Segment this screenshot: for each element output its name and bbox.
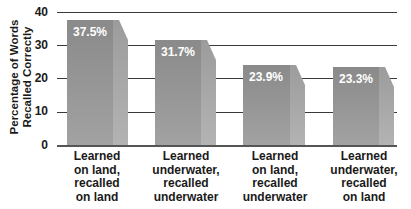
y-tick-30: 30: [28, 38, 48, 52]
bar-side: [201, 40, 216, 145]
x-category-1: Learned on land, recalled on land: [52, 150, 142, 204]
cat-line: Learned: [141, 150, 231, 164]
cat-line: on land: [319, 191, 409, 205]
bar-side: [113, 20, 128, 145]
bar-value-label: 23.3%: [333, 72, 379, 86]
x-category-3: Learned on land, recalled underwater: [230, 150, 320, 204]
cat-line: recalled: [141, 177, 231, 191]
cat-line: recalled: [52, 177, 142, 191]
x-category-2: Learned underwater, recalled underwater: [141, 150, 231, 204]
cat-line: Learned: [52, 150, 142, 164]
x-category-4: Learned underwater, recalled on land: [319, 150, 409, 204]
bar-value-label: 37.5%: [67, 25, 113, 39]
bar-side: [290, 65, 305, 145]
y-tick-0: 0: [28, 138, 48, 152]
cat-line: on land: [52, 191, 142, 205]
cat-line: Learned: [319, 150, 409, 164]
bar-learned-underwater-recalled-land: 23.3%: [333, 67, 394, 145]
bar-learned-underwater-recalled-underwater: 31.7%: [155, 40, 216, 145]
cat-line: underwater,: [141, 164, 231, 178]
bar-value-label: 31.7%: [155, 45, 201, 59]
cat-line: underwater: [141, 191, 231, 205]
y-tick-20: 20: [28, 71, 48, 85]
cat-line: underwater,: [319, 164, 409, 178]
cat-line: recalled: [319, 177, 409, 191]
bar-value-label: 23.9%: [243, 70, 289, 84]
x-axis-baseline: [57, 145, 397, 147]
cat-line: on land,: [230, 164, 320, 178]
y-tick-10: 10: [28, 104, 48, 118]
cat-line: Learned: [230, 150, 320, 164]
y-axis-label-line1: Percentage of Words: [8, 2, 21, 152]
cat-line: on land,: [52, 164, 142, 178]
cat-line: recalled: [230, 177, 320, 191]
bar-learned-land-recalled-land: 37.5%: [67, 20, 128, 145]
gridline-40: [57, 12, 397, 13]
bar-learned-land-recalled-underwater: 23.9%: [243, 65, 305, 145]
y-tick-40: 40: [28, 5, 48, 19]
bar-side: [379, 67, 394, 145]
cat-line: underwater: [230, 191, 320, 205]
